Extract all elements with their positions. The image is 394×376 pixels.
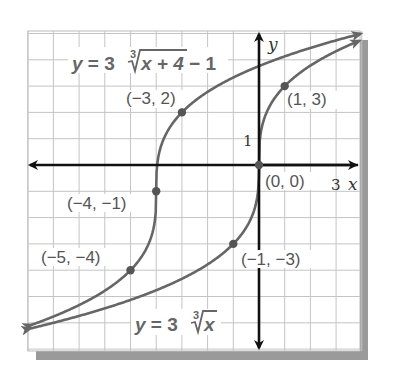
x-tick-3: 3: [331, 176, 341, 194]
point-label-neg5-neg4: (−5, −4): [41, 248, 101, 267]
svg-text:x + 4 − 1: x + 4 − 1: [140, 53, 216, 74]
svg-text:y = 3: y = 3: [71, 53, 115, 74]
svg-text:y = 3: y = 3: [134, 314, 178, 335]
y-axis-label: y: [267, 34, 278, 54]
data-point: [229, 240, 237, 248]
svg-text:3: 3: [130, 48, 136, 60]
y-tick-1: 1: [243, 132, 253, 150]
point-label-neg1-neg3: (−1, −3): [241, 250, 301, 269]
point-label-neg4-neg1: (−4, −1): [67, 194, 127, 213]
data-point: [126, 266, 134, 274]
data-point: [152, 187, 160, 195]
svg-text:x: x: [203, 314, 216, 335]
point-label-neg3-2: (−3, 2): [126, 89, 176, 108]
point-label-0-0: (0, 0): [265, 172, 305, 191]
point-label-1-3: (1, 3): [287, 90, 327, 109]
graph: y x 3 1 (−3, 2) (1, 3) (0, 0) (−4, −1) (…: [0, 0, 394, 376]
svg-text:3: 3: [193, 309, 199, 321]
x-axis-label: x: [348, 174, 358, 194]
data-point: [178, 108, 186, 116]
data-point: [255, 161, 263, 169]
